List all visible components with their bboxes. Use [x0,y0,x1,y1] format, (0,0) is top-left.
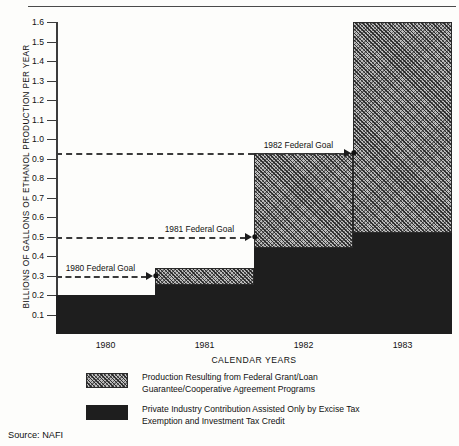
goal-line-0 [56,276,147,278]
legend-private-line2: Exemption and Investment Tax Credit [142,416,360,428]
goal-arrow-2 [344,149,351,157]
goal-line-1 [56,237,246,239]
goal-arrow-0 [146,272,153,280]
y-tick-label: 0.5 [32,232,44,241]
plot-area: 1.61.51.41.31.21.11.00.90.80.70.60.50.40… [56,22,452,334]
y-tick-mark [47,237,56,238]
y-tick-mark [47,295,56,296]
y-tick-mark [47,120,56,121]
y-tick-label: 1.0 [32,135,44,144]
y-tick-label: 1.3 [32,76,44,85]
y-axis-line [56,22,58,334]
y-tick-mark [47,81,56,82]
y-tick-mark [47,42,56,43]
y-tick-mark [47,315,56,316]
bar-segment-federal-1981 [155,268,254,286]
y-tick-mark [47,61,56,62]
goal-line-2 [56,153,345,155]
x-tick-label-1982: 1982 [294,340,314,350]
legend-label-private: Private Industry Contribution Assisted O… [142,404,360,427]
y-tick-label: 1.5 [32,37,44,46]
goal-label-1: 1981 Federal Goal [163,224,236,234]
goal-arrow-1 [245,233,252,241]
y-axis-title: BILLIONS OF GALLONS OF ETHANOL PRODUCTIO… [22,22,31,332]
y-tick-label: 0.7 [32,193,44,202]
y-tick-mark [47,198,56,199]
y-tick-mark [47,159,56,160]
y-tick-label: 0.8 [32,174,44,183]
bar-segment-private-1981 [155,285,254,334]
x-tick-label-1981: 1981 [195,340,215,350]
x-tick-label-1983: 1983 [393,340,413,350]
y-tick-mark [47,178,56,179]
legend-item-federal: Production Resulting from Federal Grant/… [86,372,456,395]
y-tick-label: 0.9 [32,154,44,163]
y-tick-mark [47,217,56,218]
top-divider-rule [28,6,456,7]
y-tick-label: 0.2 [32,291,44,300]
bar-segment-private-1983 [353,233,452,334]
y-tick-label: 0.4 [32,252,44,261]
ethanol-production-chart: BILLIONS OF GALLONS OF ETHANOL PRODUCTIO… [0,0,459,446]
legend-swatch-crosshatch-icon [86,373,128,388]
y-tick-label: 1.4 [32,57,44,66]
y-tick-label: 1.6 [32,18,44,27]
y-tick-label: 0.1 [32,310,44,319]
y-tick-mark [47,276,56,277]
legend-item-private: Private Industry Contribution Assisted O… [86,404,456,427]
y-tick-mark [47,22,56,23]
bar-segment-private-1980 [56,295,155,334]
bar-segment-federal-1983 [353,22,452,233]
y-tick-label: 0.3 [32,271,44,280]
y-tick-label: 0.6 [32,213,44,222]
legend-federal-line2: Guarantee/Cooperative Agreement Programs [142,384,318,396]
legend-private-line1: Private Industry Contribution Assisted O… [142,404,360,416]
x-tick-label-1980: 1980 [96,340,116,350]
y-tick-label: 1.1 [32,115,44,124]
x-axis-title: CALENDAR YEARS [56,355,452,365]
legend-label-federal: Production Resulting from Federal Grant/… [142,372,318,395]
y-tick-mark [47,100,56,101]
goal-label-2: 1982 Federal Goal [262,140,335,150]
bar-segment-private-1982 [254,248,353,334]
y-tick-mark [47,256,56,257]
bar-segment-federal-1982 [254,153,353,249]
legend-swatch-solid-icon [86,405,128,420]
source-note: Source: NAFI [8,430,63,440]
goal-label-0: 1980 Federal Goal [64,263,137,273]
y-tick-mark [47,139,56,140]
legend-federal-line1: Production Resulting from Federal Grant/… [142,372,318,384]
chart-legend: Production Resulting from Federal Grant/… [86,372,456,436]
y-tick-label: 1.2 [32,96,44,105]
